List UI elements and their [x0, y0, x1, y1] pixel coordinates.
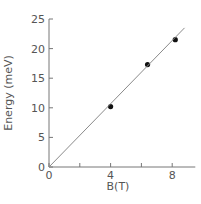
plot-area [49, 28, 185, 167]
y-tick-label: 0 [38, 161, 45, 174]
energy-vs-field-chart: 0510152025 048 Energy (meV) B(T) [0, 0, 201, 204]
y-tick-label: 15 [31, 72, 45, 85]
x-tick-label: 8 [169, 169, 176, 182]
y-tick-label: 5 [38, 131, 45, 144]
x-axis-label: B(T) [107, 180, 130, 193]
y-axis: 0510152025 [31, 13, 53, 174]
x-tick-label: 0 [46, 169, 53, 182]
y-tick-label: 25 [31, 13, 45, 26]
data-point [108, 104, 113, 109]
y-tick-label: 10 [31, 102, 45, 115]
fit-line [49, 28, 185, 167]
y-tick-label: 20 [31, 43, 45, 56]
y-axis-label: Energy (meV) [2, 55, 15, 131]
